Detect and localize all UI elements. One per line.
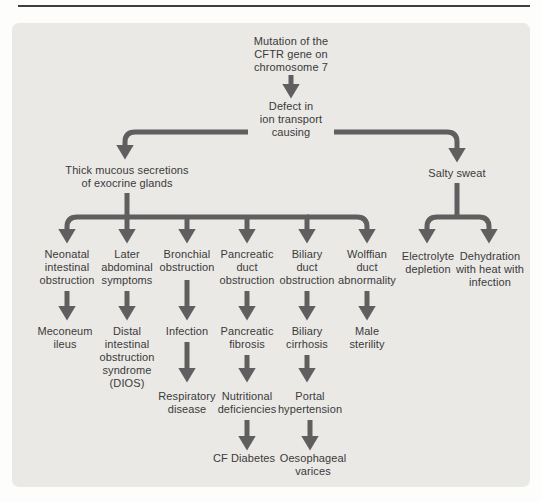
top-divider-rule xyxy=(18,5,530,7)
node-biliary-duct: Biliary duct obstruction xyxy=(280,248,335,287)
node-mutation-cftr: Mutation of the CFTR gene on chromosome … xyxy=(254,35,328,74)
node-portal-hypertension: Portal hypertension xyxy=(278,390,342,416)
node-male-sterility: Male sterility xyxy=(349,325,384,351)
node-neonatal-obstruction: Neonatal intestinal obstruction xyxy=(40,248,95,287)
node-nutritional-deficiencies: Nutritional deficiencies xyxy=(218,390,277,416)
node-cf-diabetes: CF Diabetes xyxy=(213,452,275,465)
flowchart-page: Mutation of the CFTR gene on chromosome … xyxy=(0,0,541,502)
node-infection: Infection xyxy=(166,325,208,338)
node-meconeum-ileus: Meconeum ileus xyxy=(37,325,92,351)
node-biliary-cirrhosis: Biliary cirrhosis xyxy=(286,325,328,351)
node-dehydration: Dehydration with heat with infection xyxy=(456,250,524,289)
node-salty-sweat: Salty sweat xyxy=(428,167,485,180)
node-respiratory-disease: Respiratory disease xyxy=(158,390,215,416)
node-thick-mucous: Thick mucous secretions of exocrine glan… xyxy=(65,164,188,190)
node-pancreatic-fibrosis: Pancreatic fibrosis xyxy=(221,325,274,351)
node-oesophageal-varices: Oesophageal varices xyxy=(280,452,347,478)
node-electrolyte-depletion: Electrolyte depletion xyxy=(402,250,454,276)
node-pancreatic-duct: Pancreatic duct obstruction xyxy=(220,248,275,287)
node-bronchial-obstruction: Bronchial obstruction xyxy=(160,248,215,274)
node-defect-ion-transport: Defect in ion transport causing xyxy=(260,100,322,139)
node-dios: Distal intestinal obstruction syndrome (… xyxy=(100,325,155,390)
node-later-abdominal: Later abdominal symptoms xyxy=(101,248,153,287)
node-wolffian-duct: Wolffian duct abnormality xyxy=(338,248,396,287)
